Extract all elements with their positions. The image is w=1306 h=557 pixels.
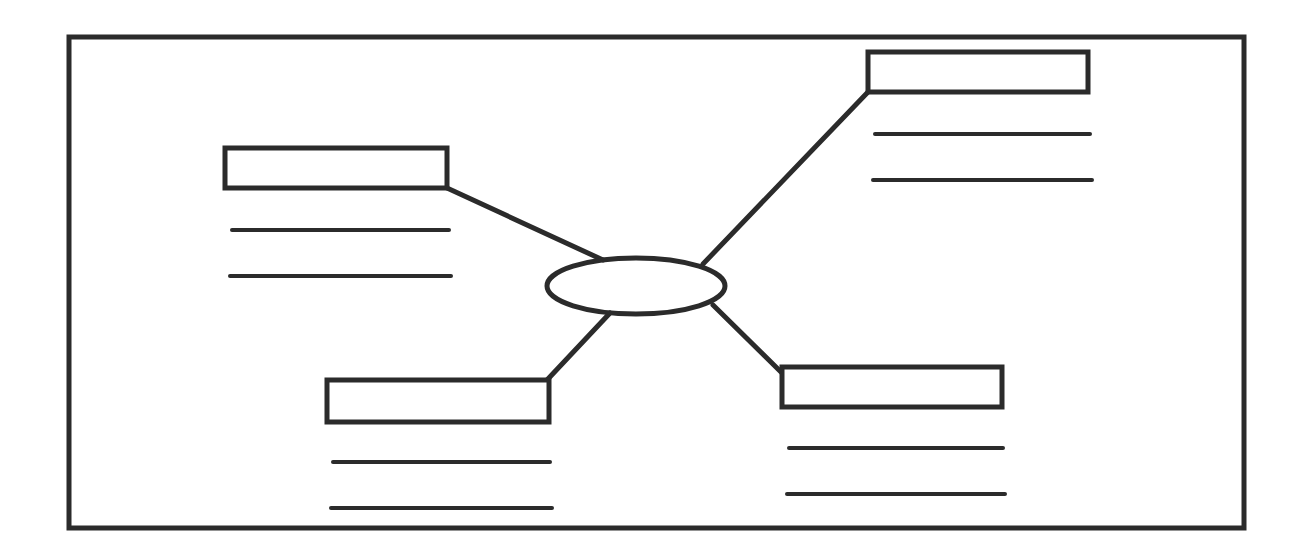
central-topic-ellipse[interactable]: [547, 258, 725, 314]
connector-line: [713, 305, 782, 373]
connector-line: [447, 188, 603, 260]
outer-frame: [69, 37, 1244, 528]
branch-title-box[interactable]: [327, 380, 549, 422]
branch-title-box[interactable]: [782, 367, 1002, 407]
branches-group: [225, 52, 1092, 508]
branch-top-left: [225, 148, 603, 276]
branch-bottom-right: [713, 305, 1005, 494]
branch-bottom-left: [327, 313, 610, 508]
mind-map-diagram: [0, 0, 1306, 557]
connector-line: [703, 92, 868, 264]
connector-line: [547, 313, 610, 380]
branch-title-box[interactable]: [868, 52, 1088, 92]
branch-title-box[interactable]: [225, 148, 447, 188]
branch-top-right: [703, 52, 1092, 264]
